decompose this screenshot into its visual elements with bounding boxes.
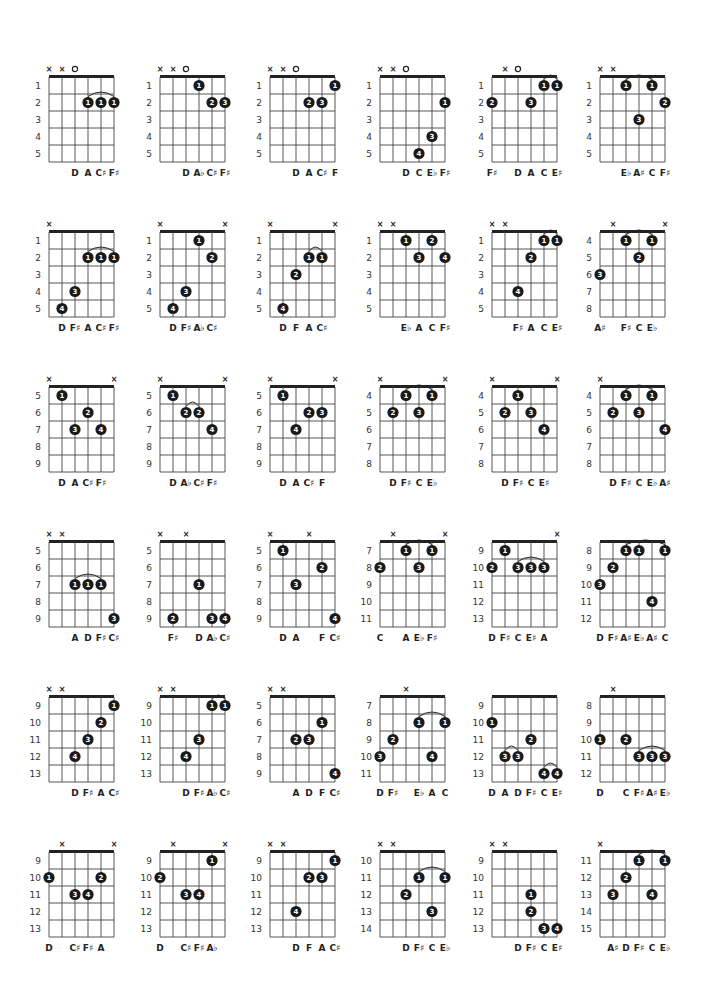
fret-number: 4 <box>586 132 592 142</box>
fret-number: 14 <box>361 924 373 934</box>
fret-number: 8 <box>586 304 592 314</box>
nut <box>380 230 445 233</box>
fret-number: 12 <box>581 873 592 883</box>
chord-diagram: 1112131415×32141A♯DF♯CE♭ <box>0 0 706 996</box>
fret-number: 11 <box>581 597 592 607</box>
fret-number: 9 <box>256 459 262 469</box>
finger-dot <box>95 252 106 263</box>
note-label: D <box>71 168 78 178</box>
note-label: D <box>596 788 603 798</box>
fret-number: 5 <box>35 149 41 159</box>
finger-number: 4 <box>333 770 338 778</box>
fret-number: 5 <box>586 149 592 159</box>
finger-number: 3 <box>417 254 422 262</box>
fret-number: 8 <box>35 597 41 607</box>
note-label: F♯ <box>83 943 94 953</box>
note-label: A <box>98 943 105 953</box>
finger-number: 3 <box>503 753 508 761</box>
chord-diagram: 910111213××1342DC♯F♯A <box>0 0 706 996</box>
muted-string-icon: × <box>280 685 287 694</box>
finger-dot <box>290 424 301 435</box>
finger-dot <box>538 923 549 934</box>
finger-dot <box>413 407 424 418</box>
fret-number: 11 <box>361 614 372 624</box>
finger-dot <box>82 97 93 108</box>
note-label: A <box>416 323 423 333</box>
barre-arc <box>212 695 225 700</box>
finger-dot <box>316 872 327 883</box>
finger-number: 4 <box>99 426 104 434</box>
muted-string-icon: × <box>597 65 604 74</box>
chord-diagram: 89101112×12333DCF♯A♯E♭ <box>0 0 706 996</box>
finger-number: 2 <box>490 99 495 107</box>
note-label: D <box>84 633 91 643</box>
fret-number: 12 <box>581 769 592 779</box>
finger-number: 3 <box>430 908 435 916</box>
finger-number: 2 <box>611 564 616 572</box>
finger-number: 3 <box>529 99 534 107</box>
muted-string-icon: × <box>267 375 274 384</box>
fret-number: 3 <box>35 115 41 125</box>
note-label: C <box>636 478 643 488</box>
fret-number: 10 <box>141 873 153 883</box>
fret-number: 9 <box>35 459 41 469</box>
finger-dot <box>303 97 314 108</box>
fret-number: 3 <box>586 115 592 125</box>
note-label: F♯ <box>96 478 107 488</box>
fret-number: 1 <box>478 236 484 246</box>
finger-dot <box>512 751 523 762</box>
note-label: C♯ <box>330 788 341 798</box>
finger-number: 1 <box>197 237 202 245</box>
fret-number: 3 <box>35 270 41 280</box>
note-label: D <box>279 633 286 643</box>
muted-string-icon: × <box>183 530 190 539</box>
muted-string-icon: × <box>489 840 496 849</box>
chord-diagram: 56789××1224DA♭C♯F♯ <box>0 0 706 996</box>
fret-number: 11 <box>141 735 152 745</box>
finger-number: 2 <box>430 237 435 245</box>
muted-string-icon: × <box>46 65 53 74</box>
finger-dot <box>277 303 288 314</box>
note-label: C <box>442 788 449 798</box>
note-label: A♭ <box>193 323 204 333</box>
finger-number: 1 <box>99 99 104 107</box>
open-string-icon <box>403 66 408 71</box>
finger-dot <box>400 889 411 900</box>
finger-dot <box>303 734 314 745</box>
finger-number: 1 <box>650 392 655 400</box>
fret-number: 5 <box>478 304 484 314</box>
finger-dot <box>69 579 80 590</box>
fret-number: 9 <box>146 459 152 469</box>
note-label: F♯ <box>526 788 537 798</box>
finger-dot <box>633 114 644 125</box>
barre-arc <box>309 247 322 252</box>
muted-string-icon: × <box>502 220 509 229</box>
fret-number: 9 <box>256 856 262 866</box>
finger-number: 1 <box>650 237 655 245</box>
muted-string-icon: × <box>306 530 313 539</box>
fret-number: 11 <box>251 890 262 900</box>
finger-dot <box>512 390 523 401</box>
finger-dot <box>303 407 314 418</box>
finger-number: 2 <box>529 908 534 916</box>
nut <box>600 385 665 388</box>
fret-number: 3 <box>478 270 484 280</box>
muted-string-icon: × <box>59 530 66 539</box>
finger-dot <box>154 872 165 883</box>
nut <box>49 230 114 233</box>
nut <box>49 75 114 78</box>
barre-arc <box>406 540 432 545</box>
finger-number: 1 <box>320 254 325 262</box>
finger-dot <box>551 768 562 779</box>
chord-diagram: 12345××1324E♭ACF♯ <box>0 0 706 996</box>
fret-number: 5 <box>256 391 262 401</box>
chord-diagram: 12345××123DA♭C♯F♯ <box>0 0 706 996</box>
muted-string-icon: × <box>377 375 384 384</box>
muted-string-icon: × <box>157 685 164 694</box>
note-label: D <box>514 168 521 178</box>
fret-number: 10 <box>473 563 485 573</box>
finger-number: 1 <box>637 857 642 865</box>
finger-number: 1 <box>197 581 202 589</box>
fret-number: 4 <box>478 391 484 401</box>
muted-string-icon: × <box>157 530 164 539</box>
